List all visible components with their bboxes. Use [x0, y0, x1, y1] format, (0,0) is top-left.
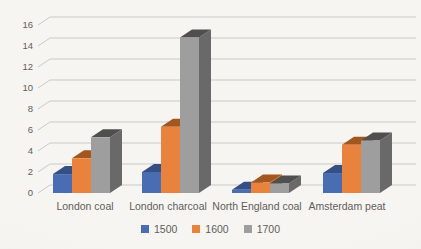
- y-tick-12: 12: [6, 61, 33, 73]
- legend-label-1700: 1700: [257, 223, 280, 235]
- gridline-12: [38, 59, 416, 67]
- bar-london-charcoal-1700: [180, 30, 211, 193]
- y-tick-2: 2: [6, 166, 33, 178]
- y-tick-10: 10: [6, 82, 33, 94]
- legend-label-1600: 1600: [205, 223, 228, 235]
- legend-item-1700: 1700: [244, 223, 280, 235]
- gridline-16: [38, 17, 416, 25]
- legend: 1500 1600 1700: [0, 223, 421, 235]
- gridline-8: [38, 101, 416, 109]
- legend-label-1500: 1500: [154, 223, 177, 235]
- gridline-10: [38, 80, 416, 88]
- gridline-6: [38, 122, 416, 130]
- bar-chart: 0 2 4 6 8 10 12 14 16 London coal London…: [0, 0, 421, 249]
- y-tick-16: 16: [6, 19, 33, 31]
- y-tick-6: 6: [6, 124, 33, 136]
- y-tick-14: 14: [6, 40, 33, 52]
- legend-swatch-1600: [192, 225, 200, 233]
- gridline-14: [38, 38, 416, 46]
- y-tick-4: 4: [6, 145, 33, 157]
- legend-swatch-1500: [141, 225, 149, 233]
- legend-item-1600: 1600: [192, 223, 228, 235]
- legend-swatch-1700: [244, 225, 252, 233]
- y-tick-0: 0: [6, 187, 33, 199]
- bar-london-coal-1700: [91, 129, 122, 193]
- bar-amsterdam-peat-1700: [361, 133, 392, 194]
- legend-item-1500: 1500: [141, 223, 177, 235]
- category-label-amsterdam-peat: Amsterdam peat: [289, 200, 405, 212]
- y-tick-8: 8: [6, 103, 33, 115]
